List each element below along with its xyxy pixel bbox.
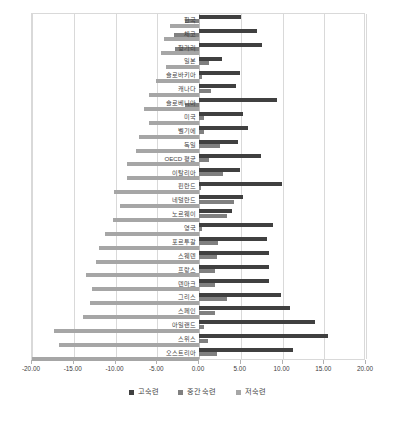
- bar-중간 숙련: [199, 241, 218, 245]
- bar-row: OECD 평균: [32, 153, 364, 167]
- bar-중간 숙련: [199, 311, 215, 315]
- category-label: 덴마크: [178, 280, 196, 286]
- legend-label: 중간 숙련: [187, 388, 217, 396]
- bar-row: 슬로베니아: [32, 97, 364, 111]
- bar-row: 이탈리아: [32, 167, 364, 181]
- bar-중간 숙련: [199, 61, 209, 65]
- bar-중간 숙련: [199, 158, 209, 162]
- bar-중간 숙련: [199, 172, 223, 176]
- category-label: 체코: [184, 31, 196, 37]
- category-label: 이탈리아: [172, 169, 196, 175]
- category-label: 포르투갈: [172, 239, 196, 245]
- bar-중간 숙련: [199, 116, 204, 120]
- category-label: 프랑스: [178, 267, 196, 273]
- bar-row: 한국: [32, 14, 364, 28]
- gridline-20: [366, 14, 367, 359]
- bar-row: 노르웨이: [32, 208, 364, 222]
- legend-item-hi[interactable]: 고숙련: [129, 388, 159, 396]
- bar-중간 숙련: [199, 339, 208, 343]
- x-tick-label: 5.00: [234, 365, 246, 373]
- x-axis: -20.00-15.00-10.00-5.000.005.0010.0015.0…: [31, 360, 365, 374]
- bar-고숙련: [199, 334, 328, 338]
- bar-중간 숙련: [199, 255, 217, 259]
- bar-고숙련: [199, 98, 277, 102]
- bar-row: 프랑스: [32, 264, 364, 278]
- bar-중간 숙련: [199, 130, 204, 134]
- chart-root: 한국체코헝가리일본슬로바키아캐나다슬로베니아미국벨기에독일OECD 평균이탈리아…: [0, 0, 394, 426]
- bar-row: 핀란드: [32, 181, 364, 195]
- bar-rows: 한국체코헝가리일본슬로바키아캐나다슬로베니아미국벨기에독일OECD 평균이탈리아…: [32, 14, 364, 359]
- bar-고숙련: [199, 43, 262, 47]
- x-tick-label: -10.00: [105, 365, 123, 373]
- x-tick-label: 10.00: [274, 365, 290, 373]
- legend-item-lo[interactable]: 저숙련: [236, 388, 266, 396]
- bar-row: 체코: [32, 28, 364, 42]
- bar-중간 숙련: [199, 352, 217, 356]
- bar-row: 영국: [32, 222, 364, 236]
- bar-row: 스위스: [32, 333, 364, 347]
- legend-swatch-icon: [129, 390, 134, 395]
- category-label: 스웨덴: [178, 253, 196, 259]
- category-label: 미국: [184, 114, 196, 120]
- bar-중간 숙련: [199, 269, 215, 273]
- category-label: 슬로베니아: [166, 100, 196, 106]
- category-label: 그리스: [178, 294, 196, 300]
- category-label: 오스트리아: [166, 350, 196, 356]
- bar-row: 독일: [32, 139, 364, 153]
- category-label: 스위스: [178, 336, 196, 342]
- bar-row: 일본: [32, 56, 364, 70]
- bar-고숙련: [199, 112, 243, 116]
- bar-중간 숙련: [199, 227, 202, 231]
- bar-row: 스페인: [32, 305, 364, 319]
- x-tick: [31, 360, 32, 364]
- bar-중간 숙련: [199, 89, 211, 93]
- x-tick: [73, 360, 74, 364]
- chart-legend: 고숙련중간 숙련저숙련: [0, 388, 394, 396]
- x-tick: [282, 360, 283, 364]
- bar-고숙련: [199, 126, 248, 130]
- legend-swatch-icon: [178, 390, 183, 395]
- category-label: 독일: [184, 142, 196, 148]
- category-label: 노르웨이: [172, 211, 196, 217]
- bar-중간 숙련: [199, 144, 220, 148]
- x-tick: [323, 360, 324, 364]
- x-tick-label: -5.00: [149, 365, 164, 373]
- bar-row: 포르투갈: [32, 236, 364, 250]
- x-tick: [240, 360, 241, 364]
- bar-고숙련: [199, 29, 257, 33]
- bar-row: 아일랜드: [32, 319, 364, 333]
- bar-row: 벨기에: [32, 125, 364, 139]
- x-tick-label: 20.00: [357, 365, 373, 373]
- bar-고숙련: [199, 182, 282, 186]
- x-tick-label: -20.00: [22, 365, 40, 373]
- x-tick: [198, 360, 199, 364]
- bar-고숙련: [199, 223, 273, 227]
- x-tick-label: 0.00: [192, 365, 204, 373]
- category-label: 한국: [184, 17, 196, 23]
- category-label: 캐나다: [178, 86, 196, 92]
- bar-고숙련: [199, 15, 241, 19]
- x-tick: [115, 360, 116, 364]
- bar-중간 숙련: [199, 200, 234, 204]
- x-tick-label: -15.00: [64, 365, 82, 373]
- legend-item-mid[interactable]: 중간 숙련: [178, 388, 217, 396]
- x-tick: [365, 360, 366, 364]
- bar-row: 스웨덴: [32, 250, 364, 264]
- bar-중간 숙련: [199, 75, 202, 79]
- x-tick: [156, 360, 157, 364]
- category-label: 헝가리: [178, 44, 196, 50]
- bar-중간 숙련: [199, 325, 204, 329]
- x-tick-label: 15.00: [315, 365, 331, 373]
- category-label: OECD 평균: [164, 156, 196, 162]
- category-label: 일본: [184, 58, 196, 64]
- category-label: 네덜란드: [172, 197, 196, 203]
- bar-중간 숙련: [199, 214, 227, 218]
- bar-row: 네덜란드: [32, 194, 364, 208]
- bar-고숙련: [199, 71, 240, 75]
- category-label: 영국: [184, 225, 196, 231]
- plot-area: 한국체코헝가리일본슬로바키아캐나다슬로베니아미국벨기에독일OECD 평균이탈리아…: [31, 13, 365, 360]
- bar-고숙련: [199, 320, 315, 324]
- bar-row: 헝가리: [32, 42, 364, 56]
- bar-중간 숙련: [199, 297, 227, 301]
- legend-swatch-icon: [236, 390, 241, 395]
